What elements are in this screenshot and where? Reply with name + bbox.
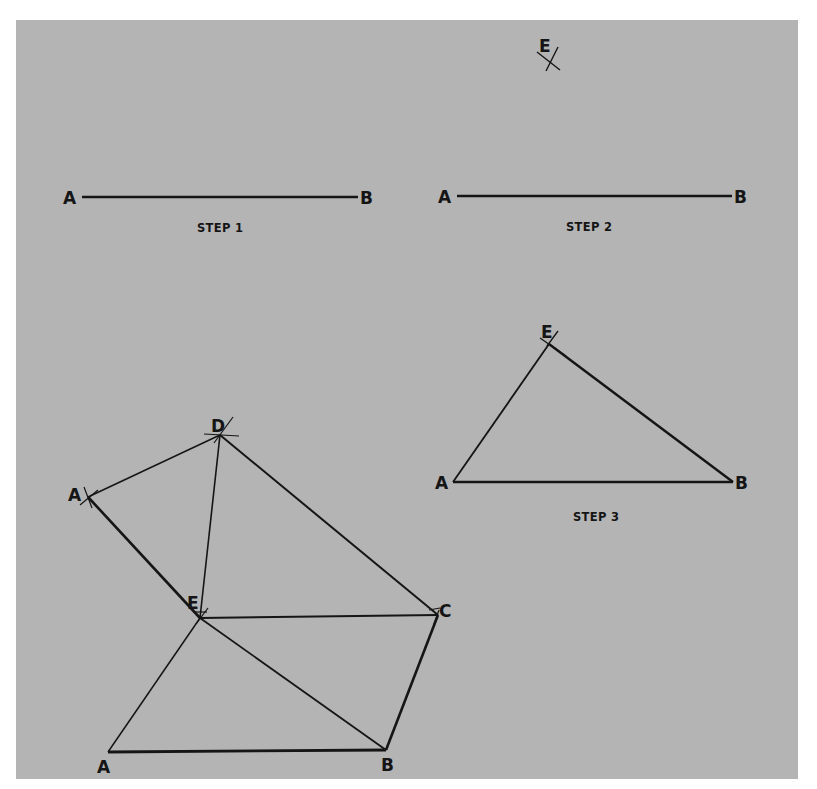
segment-da xyxy=(88,435,220,497)
segment-ce xyxy=(200,615,438,618)
arc-mark-icon xyxy=(80,490,98,505)
segment-a-upper-e xyxy=(88,497,200,618)
point-label-b: B xyxy=(360,188,373,208)
step-3: A B E STEP 3 xyxy=(435,322,748,524)
arc-mark-icon xyxy=(84,487,92,508)
construction-diagram: A B STEP 1 A B E STEP 2 A B E STEP 3 xyxy=(0,0,817,789)
point-label-b: B xyxy=(735,473,748,493)
point-label-b: B xyxy=(381,755,394,775)
point-label-e: E xyxy=(187,593,199,613)
segment-bc xyxy=(386,615,438,750)
point-label-c: C xyxy=(439,601,451,621)
point-label-e: E xyxy=(541,322,553,342)
segment-ab xyxy=(108,750,386,752)
step-4-polygon: A B C D A E xyxy=(68,416,451,777)
point-label-b: B xyxy=(734,187,747,207)
segment-ae xyxy=(108,618,200,752)
point-label-a-upper: A xyxy=(68,485,82,505)
step-1: A B STEP 1 xyxy=(63,188,373,235)
step-caption: STEP 2 xyxy=(566,220,612,234)
segment-ae xyxy=(453,344,549,482)
point-label-e: E xyxy=(539,36,551,56)
point-label-a: A xyxy=(435,473,449,493)
segment-cd xyxy=(220,435,438,615)
point-label-a: A xyxy=(438,187,452,207)
point-label-a: A xyxy=(97,757,111,777)
step-caption: STEP 3 xyxy=(573,510,619,524)
segment-de xyxy=(200,435,220,618)
segment-eb xyxy=(549,344,733,482)
step-2: A B E STEP 2 xyxy=(438,36,747,234)
point-label-d: D xyxy=(211,416,225,436)
point-label-a: A xyxy=(63,188,77,208)
segment-be xyxy=(200,618,386,750)
step-caption: STEP 1 xyxy=(197,221,243,235)
